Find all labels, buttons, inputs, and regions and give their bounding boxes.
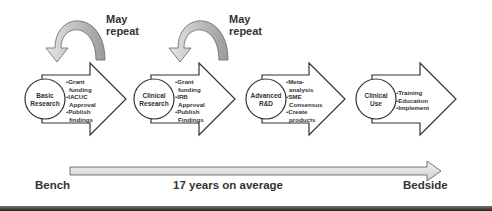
bullet-item: funding <box>175 86 205 94</box>
repeat-label-line: repeat <box>106 25 139 37</box>
bullet-item: •IACUC <box>66 93 96 101</box>
bullet-item: •SME <box>286 93 322 101</box>
stage-bullets-1: •Grant funding •IACUC Approval •Publish … <box>66 78 96 124</box>
bullet-item: •Grant <box>66 78 96 86</box>
bullet-item: •Grant <box>175 78 205 86</box>
repeat-label-2: May repeat <box>229 13 262 37</box>
bullet-item: •Training <box>396 89 429 97</box>
bullet-item: Findings <box>175 116 205 124</box>
stage-name-line: Research <box>134 100 174 108</box>
bottom-border <box>0 206 492 211</box>
bullet-item: findings <box>66 116 96 124</box>
bullet-item: •Publish <box>175 108 205 116</box>
bullet-item: •Publish <box>66 108 96 116</box>
repeat-curved-arrow-icon <box>169 21 228 62</box>
bullet-item: •Create <box>286 108 322 116</box>
stage-name-clinical-use: Clinical Use <box>356 92 396 107</box>
bullet-item: •Education <box>396 97 429 105</box>
timeline-duration-label: 17 years on average <box>173 179 283 191</box>
stage-name-line: Basic <box>25 92 65 100</box>
repeat-label-line: repeat <box>229 25 262 37</box>
stage-name-line: Research <box>25 100 65 108</box>
repeat-label-line: May <box>106 13 139 25</box>
bullet-item: analysis <box>286 86 322 94</box>
stage-name-line: Clinical <box>134 92 174 100</box>
bullet-item: •IRB <box>175 93 205 101</box>
stage-name-basic-research: Basic Research <box>25 92 65 107</box>
stage-name-clinical-research: Clinical Research <box>134 92 174 107</box>
repeat-label-line: May <box>229 13 262 25</box>
repeat-curved-arrow-icon <box>46 21 105 62</box>
bullet-item: Approval <box>175 101 205 109</box>
stage-name-line: Use <box>356 100 396 108</box>
timeline-end-label: Bedside <box>403 179 448 191</box>
stage-name-advanced-rd: Advanced R&D <box>246 92 286 107</box>
bullet-item: funding <box>66 86 96 94</box>
stage-name-line: Advanced <box>246 92 286 100</box>
bullet-item: •Meta- <box>286 78 322 86</box>
repeat-label-1: May repeat <box>106 13 139 37</box>
timeline-start-label: Bench <box>35 179 70 191</box>
bullet-item: •Implement <box>396 104 429 112</box>
stage-bullets-2: •Grant funding •IRB Approval •Publish Fi… <box>175 78 205 124</box>
bullet-item: products <box>286 116 322 124</box>
stage-name-line: R&D <box>246 100 286 108</box>
bullet-item: Consensus <box>286 101 322 109</box>
timeline-arrow-icon <box>70 161 441 181</box>
stage-bullets-4: •Training •Education •Implement <box>396 89 429 112</box>
stage-bullets-3: •Meta- analysis •SME Consensus •Create p… <box>286 78 322 124</box>
stage-name-line: Clinical <box>356 92 396 100</box>
bullet-item: Approval <box>66 101 96 109</box>
